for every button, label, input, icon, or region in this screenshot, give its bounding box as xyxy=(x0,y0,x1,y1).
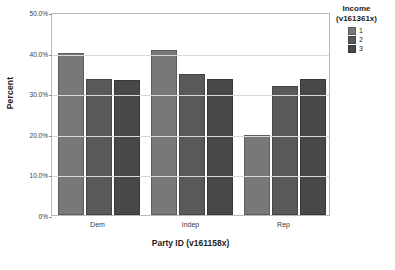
legend-subtitle: (v161361x) xyxy=(318,14,395,24)
legend-item: 3 xyxy=(348,45,395,53)
gridline xyxy=(52,55,329,56)
x-tick-label: Dem xyxy=(58,221,138,228)
bar xyxy=(151,50,177,215)
legend-items: 123 xyxy=(318,27,395,53)
y-tick-label: 0% xyxy=(8,213,48,220)
y-tick-mark xyxy=(49,136,52,137)
legend-swatch xyxy=(348,36,356,44)
bar xyxy=(58,53,84,215)
y-tick-label: 50.0% xyxy=(8,10,48,17)
legend-swatch xyxy=(348,27,356,35)
bar xyxy=(86,79,112,215)
x-axis-title: Party ID (v161158x) xyxy=(51,238,330,248)
bar xyxy=(300,79,326,215)
gridline xyxy=(52,176,329,177)
y-tick-label: 20.0% xyxy=(8,131,48,138)
legend-swatch xyxy=(348,45,356,53)
legend-title: Income xyxy=(318,4,395,14)
gridline xyxy=(52,95,329,96)
y-tick-mark xyxy=(49,95,52,96)
y-axis-tick-labels: 0%10.0%20.0%30.0%40.0%50.0% xyxy=(8,0,48,270)
y-tick-label: 30.0% xyxy=(8,91,48,98)
bar xyxy=(207,79,233,215)
bar xyxy=(114,80,140,215)
legend-item: 2 xyxy=(348,36,395,44)
bar xyxy=(272,86,298,215)
legend: Income (v161361x) 123 xyxy=(318,4,395,54)
y-tick-label: 40.0% xyxy=(8,50,48,57)
x-tick-label: Rep xyxy=(244,221,324,228)
legend-label: 1 xyxy=(359,27,363,35)
bar xyxy=(244,135,270,215)
bar-group-indep xyxy=(145,14,238,215)
legend-label: 2 xyxy=(359,36,363,44)
legend-label: 3 xyxy=(359,45,363,53)
legend-item: 1 xyxy=(348,27,395,35)
y-tick-mark xyxy=(49,14,52,15)
y-tick-mark xyxy=(49,176,52,177)
y-tick-label: 10.0% xyxy=(8,172,48,179)
bar-group-dem xyxy=(52,14,145,215)
y-tick-mark xyxy=(49,55,52,56)
bar-chart: Percent 0%10.0%20.0%30.0%40.0%50.0% Part… xyxy=(0,0,395,270)
plot-area xyxy=(51,13,330,216)
x-tick-label: Indep xyxy=(151,221,231,228)
gridline xyxy=(52,136,329,137)
bars-layer xyxy=(52,14,329,215)
y-tick-mark xyxy=(49,217,52,218)
